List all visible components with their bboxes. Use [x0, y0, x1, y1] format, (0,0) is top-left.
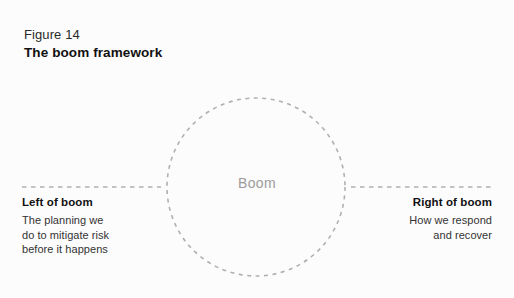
right-body-line-2: and recover	[332, 228, 492, 243]
right-of-boom-block: Right of boom How we respond and recover	[332, 195, 492, 242]
right-body-line-1: How we respond	[332, 213, 492, 228]
figure-container: Figure 14 The boom framework Boom Left o…	[0, 0, 514, 298]
left-body-line-1: The planning we	[22, 213, 182, 228]
right-of-boom-heading: Right of boom	[332, 195, 492, 210]
left-body-line-3: before it happens	[22, 242, 182, 257]
left-of-boom-block: Left of boom The planning we do to mitig…	[22, 195, 182, 257]
center-label-boom: Boom	[0, 174, 514, 192]
right-of-boom-body: How we respond and recover	[332, 213, 492, 242]
left-of-boom-heading: Left of boom	[22, 195, 182, 210]
left-of-boom-body: The planning we do to mitigate risk befo…	[22, 213, 182, 257]
left-body-line-2: do to mitigate risk	[22, 228, 182, 243]
